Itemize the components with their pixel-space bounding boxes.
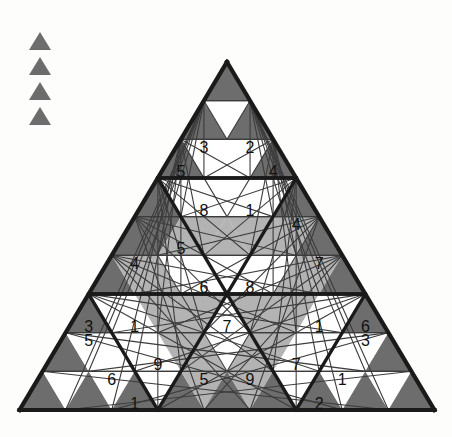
cell-value: 1 [246,202,255,219]
cell-value: 4 [292,216,301,233]
cell-value: 3 [361,332,370,349]
cell-value: 7 [315,255,324,272]
cell-value: 7 [223,318,232,335]
triangular-sudoku-puzzle[interactable]: 532481544687317165973615921 [0,0,452,437]
cell-value: 9 [153,356,162,373]
cell-value: 1 [315,318,324,335]
puzzle-cell[interactable] [204,62,250,101]
cell-value: 5 [84,332,93,349]
cell-value: 8 [246,279,255,296]
cell-value: 1 [130,318,139,335]
cell-value: 3 [199,139,208,156]
cell-value: 5 [176,240,185,257]
cell-value: 5 [199,371,208,388]
cell-value: 5 [176,163,185,180]
cell-value: 6 [107,371,116,388]
cell-value: 2 [246,139,255,156]
cell-value: 2 [315,395,324,412]
cell-value: 1 [338,371,347,388]
cell-value: 4 [269,163,278,180]
cell-value: 6 [199,279,208,296]
cell-value: 7 [292,356,301,373]
cell-value: 4 [130,255,139,272]
cell-value: 8 [199,202,208,219]
cell-value: 9 [246,371,255,388]
cell-value: 1 [130,395,139,412]
